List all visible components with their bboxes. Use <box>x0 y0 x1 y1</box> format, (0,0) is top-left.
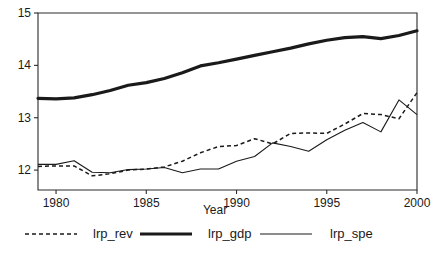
x-axis-tick-labels: 19801985199019952000 <box>43 196 431 210</box>
series-line-lrp-spe <box>38 100 417 173</box>
line-chart: 12131415 19801985199019952000 Year lrp_r… <box>0 0 431 258</box>
y-axis-tick-labels: 12131415 <box>18 6 32 177</box>
chart-figure: 12131415 19801985199019952000 Year lrp_r… <box>0 0 431 258</box>
y-tick-label: 13 <box>18 111 32 125</box>
chart-legend: lrp_revlrp_gdplrp_spe <box>25 226 373 241</box>
legend-label-lrp-rev: lrp_rev <box>93 226 133 241</box>
y-tick-label: 14 <box>18 58 32 72</box>
x-axis-title: Year <box>203 203 227 217</box>
y-tick-label: 12 <box>18 163 32 177</box>
x-tick-label: 1995 <box>313 196 340 210</box>
x-tick-label: 1990 <box>223 196 250 210</box>
y-axis-ticks <box>34 13 38 170</box>
series-group <box>38 31 417 176</box>
x-tick-label: 2000 <box>404 196 431 210</box>
x-axis-ticks <box>56 190 417 194</box>
x-tick-label: 1980 <box>43 196 70 210</box>
series-line-lrp-gdp <box>38 31 417 99</box>
plot-frame <box>38 13 417 190</box>
axis-frame <box>38 13 417 190</box>
y-tick-label: 15 <box>18 6 32 20</box>
x-tick-label: 1985 <box>133 196 160 210</box>
legend-label-lrp-gdp: lrp_gdp <box>208 226 251 241</box>
legend-label-lrp-spe: lrp_spe <box>330 226 373 241</box>
series-line-lrp-rev <box>38 93 417 176</box>
